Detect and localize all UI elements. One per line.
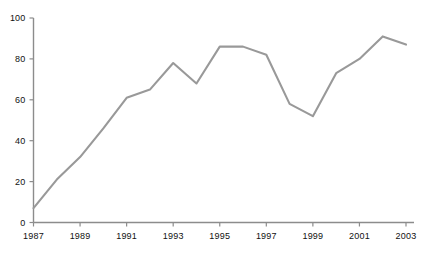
x-tick-label: 1995 [209,231,230,241]
x-tick-label: 1993 [163,231,184,241]
y-tick-label: 40 [15,136,25,146]
chart-canvas: 020406080100 198719891991199319951997199… [0,0,422,260]
x-tick-label: 1997 [256,231,277,241]
line-chart: 020406080100 198719891991199319951997199… [0,0,422,260]
x-tick-labels: 198719891991199319951997199920012003 [23,231,416,241]
x-tick-label: 2003 [396,231,417,241]
y-tick-label: 80 [15,54,25,64]
y-tick-label: 60 [15,95,25,105]
x-tick-label: 1987 [23,231,44,241]
y-tick-label: 100 [10,13,26,23]
y-tick-label: 20 [15,177,25,187]
y-tick-label: 0 [20,218,25,228]
x-tick-label: 1991 [116,231,137,241]
chart-background [0,0,422,260]
x-tick-label: 2001 [349,231,370,241]
x-tick-label: 1989 [70,231,91,241]
x-tick-label: 1999 [302,231,323,241]
